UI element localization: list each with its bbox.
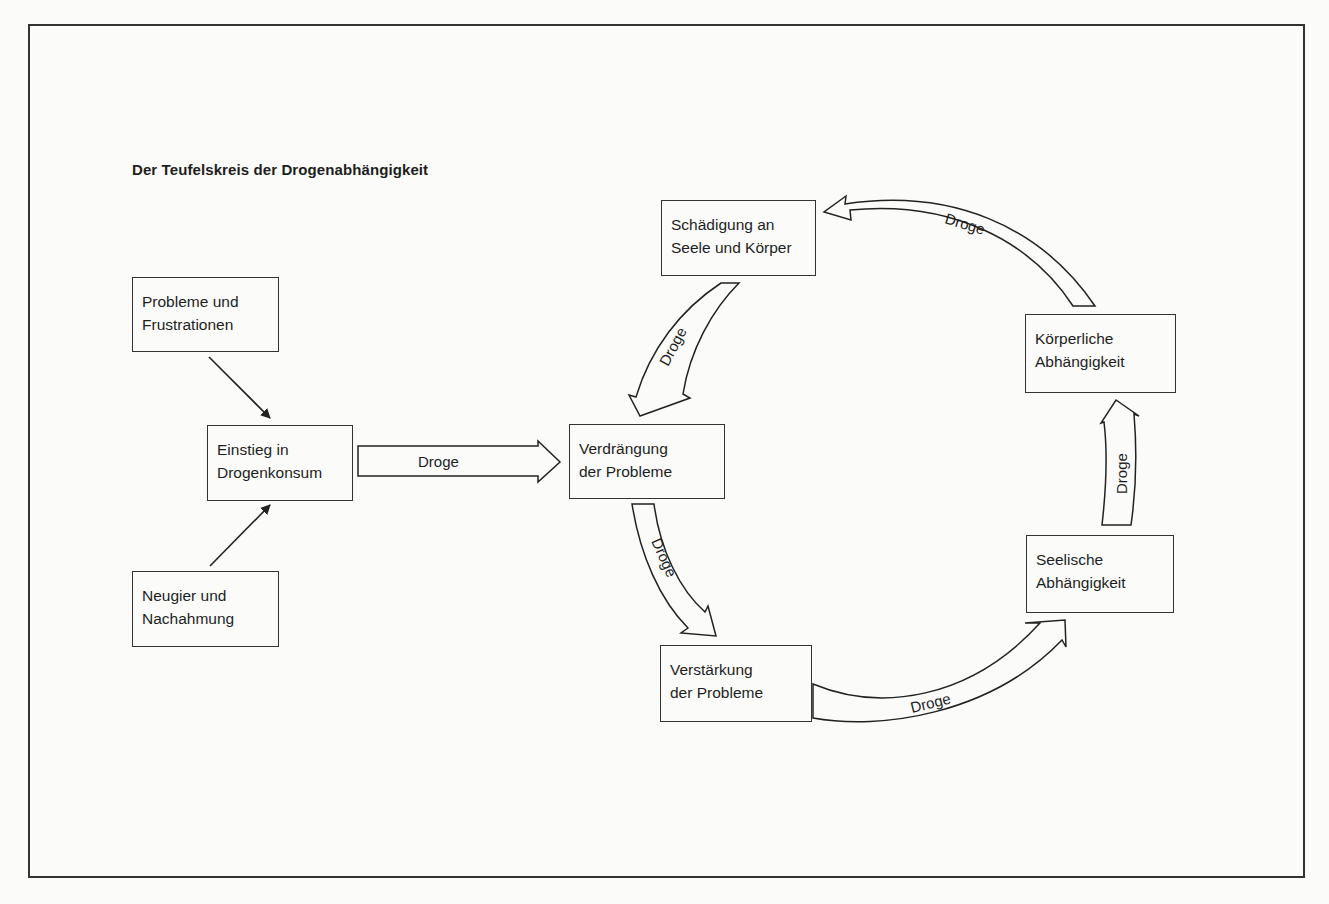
node-schaedigung-an-seele-und-koerper: Schädigung an Seele und Körper bbox=[661, 200, 816, 276]
node-neugier-und-nachahmung: Neugier und Nachahmung bbox=[132, 571, 279, 647]
node-line: der Probleme bbox=[579, 460, 724, 483]
node-line: Seele und Körper bbox=[671, 236, 815, 259]
block-arrow-schaedigung-to-verdraengung bbox=[629, 283, 739, 416]
node-line: Nachahmung bbox=[142, 607, 278, 630]
node-line: Verdrängung bbox=[579, 437, 724, 460]
label-droge-1: Droge bbox=[418, 453, 459, 470]
node-line: Einstieg in bbox=[217, 438, 352, 461]
node-line: Drogenkonsum bbox=[217, 461, 352, 484]
node-line: der Probleme bbox=[670, 681, 811, 704]
node-line: Seelische bbox=[1036, 548, 1173, 571]
node-probleme-und-frustrationen: Probleme und Frustrationen bbox=[132, 277, 279, 352]
node-seelische-abhaengigkeit: Seelische Abhängigkeit bbox=[1026, 535, 1174, 613]
node-koerperliche-abhaengigkeit: Körperliche Abhängigkeit bbox=[1025, 314, 1176, 393]
arrow-neugier-to-einstieg bbox=[210, 505, 270, 566]
node-line: Neugier und bbox=[142, 584, 278, 607]
node-einstieg-in-drogenkonsum: Einstieg in Drogenkonsum bbox=[207, 425, 353, 501]
node-line: Körperliche bbox=[1035, 327, 1175, 350]
node-line: Probleme und bbox=[142, 290, 278, 313]
label-droge-2: Droge bbox=[943, 210, 987, 238]
node-line: Schädigung an bbox=[671, 213, 815, 236]
node-verdraengung-der-probleme: Verdrängung der Probleme bbox=[569, 424, 725, 499]
label-droge-5: Droge bbox=[1113, 453, 1130, 494]
node-line: Abhängigkeit bbox=[1036, 571, 1173, 594]
arrow-probleme-to-einstieg bbox=[209, 357, 270, 418]
node-verstaerkung-der-probleme: Verstärkung der Probleme bbox=[660, 645, 812, 722]
node-line: Frustrationen bbox=[142, 313, 278, 336]
node-line: Verstärkung bbox=[670, 658, 811, 681]
node-line: Abhängigkeit bbox=[1035, 350, 1175, 373]
block-arrow-einstieg-to-verdraengung bbox=[358, 441, 560, 482]
